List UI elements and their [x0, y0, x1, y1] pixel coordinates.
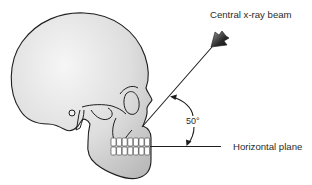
- lower-tooth: [111, 147, 116, 155]
- lower-tooth: [128, 147, 133, 155]
- diagram-canvas: Central x-ray beam 50° Horizontal plane: [0, 0, 312, 185]
- angle-label: 50°: [186, 116, 200, 126]
- angle-arc: [172, 97, 193, 116]
- lower-tooth: [122, 147, 127, 155]
- central-beam-label: Central x-ray beam: [210, 9, 292, 20]
- skull: [11, 13, 152, 179]
- lower-tooth: [133, 147, 138, 155]
- upper-tooth: [133, 138, 138, 146]
- beam-arrowhead-icon: [211, 31, 229, 47]
- lower-tooth: [145, 147, 150, 155]
- upper-tooth: [139, 138, 144, 146]
- upper-tooth: [128, 138, 133, 146]
- upper-tooth: [145, 138, 150, 146]
- upper-tooth: [122, 138, 127, 146]
- upper-tooth: [111, 138, 116, 146]
- lower-tooth: [139, 147, 144, 155]
- upper-tooth: [117, 138, 122, 146]
- angle-arrowhead-top-icon: [170, 95, 177, 101]
- ear-canal: [69, 110, 75, 116]
- lower-tooth: [117, 147, 122, 155]
- central-beam-line: [142, 47, 212, 127]
- horizontal-plane-label: Horizontal plane: [233, 141, 302, 152]
